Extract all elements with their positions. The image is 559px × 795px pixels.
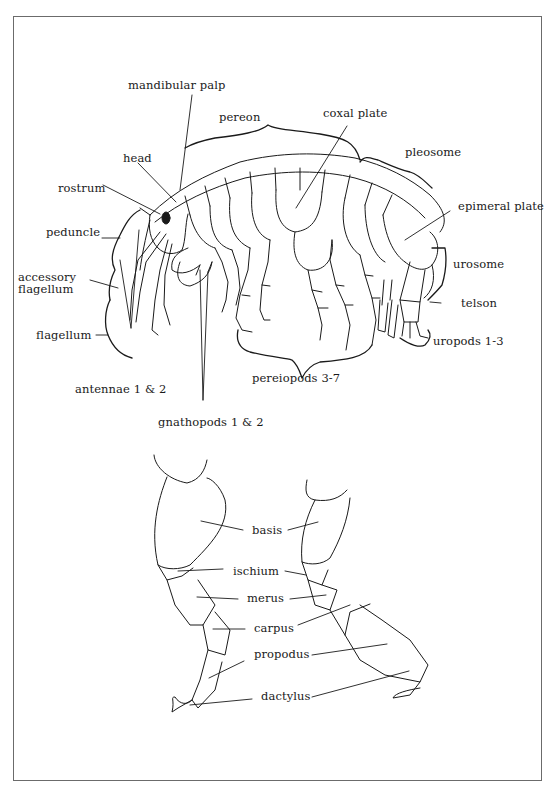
body-drawing [130, 154, 444, 350]
label-pereiopods: pereiopods 3-7 [252, 372, 340, 384]
label-telson: telson [461, 297, 497, 309]
label-uropods: uropods 1-3 [433, 335, 504, 347]
label-merus: merus [247, 592, 284, 604]
label-basis: basis [252, 524, 282, 536]
label-ischium: ischium [233, 565, 279, 577]
label-mandibular-palp: mandibular palp [128, 79, 225, 91]
label-carpus: carpus [254, 622, 294, 634]
label-pleosome: pleosome [405, 146, 461, 158]
label-antennae: antennae 1 & 2 [75, 383, 166, 395]
label-coxal-plate: coxal plate [323, 107, 387, 119]
leg-leader-lines [178, 521, 409, 705]
label-flagellum: flagellum [36, 329, 92, 341]
label-propodus: propodus [254, 648, 310, 660]
label-dactylus: dactylus [261, 690, 311, 702]
label-peduncle: peduncle [46, 226, 100, 238]
label-head: head [123, 152, 152, 164]
label-urosome: urosome [453, 258, 504, 270]
label-pereon: pereon [219, 111, 260, 123]
leg-drawing [154, 455, 428, 712]
label-gnathopods: gnathopods 1 & 2 [158, 416, 264, 428]
amphipod-illustration [0, 0, 559, 795]
label-rostrum: rostrum [58, 182, 105, 194]
label-epimeral-plate: epimeral plate [458, 200, 544, 212]
label-accessory-flagellum-line2: flagellum [18, 283, 74, 295]
